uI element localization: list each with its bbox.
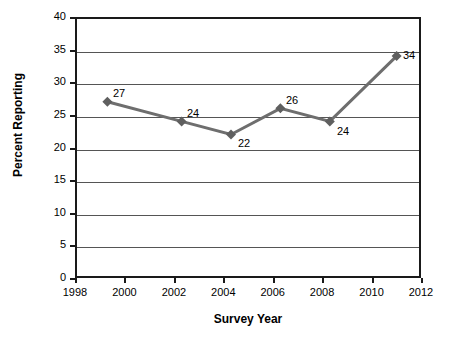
y-tick-mark bbox=[70, 213, 75, 215]
x-tick-label: 2000 bbox=[104, 287, 144, 298]
y-axis-title: Percent Reporting bbox=[11, 45, 25, 205]
y-tick-mark bbox=[70, 245, 75, 247]
x-tick-mark bbox=[372, 278, 374, 283]
data-point-label: 24 bbox=[337, 126, 349, 137]
x-tick-label: 2010 bbox=[352, 287, 392, 298]
x-tick-label: 1998 bbox=[55, 287, 95, 298]
y-tick-mark bbox=[70, 82, 75, 84]
y-tick-mark bbox=[70, 180, 75, 182]
y-tick-label: 10 bbox=[36, 207, 66, 218]
data-point-label: 22 bbox=[238, 138, 250, 149]
y-tick-mark bbox=[70, 17, 75, 19]
y-axis: 40 35 30 25 20 15 10 5 0 1998 2000 2002 … bbox=[0, 0, 450, 338]
x-tick-mark bbox=[75, 278, 77, 283]
x-tick-label: 2008 bbox=[302, 287, 342, 298]
y-tick-label: 20 bbox=[36, 142, 66, 153]
y-tick-label: 5 bbox=[36, 239, 66, 250]
y-tick-label: 25 bbox=[36, 109, 66, 120]
x-tick-label: 2004 bbox=[203, 287, 243, 298]
x-tick-mark bbox=[174, 278, 176, 283]
x-tick-mark bbox=[273, 278, 275, 283]
x-tick-mark bbox=[124, 278, 126, 283]
x-tick-mark bbox=[223, 278, 225, 283]
y-tick-label: 35 bbox=[36, 44, 66, 55]
y-tick-label: 30 bbox=[36, 76, 66, 87]
data-point-label: 27 bbox=[113, 88, 125, 99]
x-tick-label: 2006 bbox=[253, 287, 293, 298]
data-point-label: 26 bbox=[286, 95, 298, 106]
y-tick-label: 40 bbox=[36, 11, 66, 22]
data-point-label: 24 bbox=[187, 108, 199, 119]
x-tick-label: 2002 bbox=[154, 287, 194, 298]
line-chart: 40 35 30 25 20 15 10 5 0 1998 2000 2002 … bbox=[0, 0, 450, 338]
y-tick-label: 15 bbox=[36, 174, 66, 185]
data-point-label: 34 bbox=[403, 50, 415, 61]
x-tick-mark bbox=[322, 278, 324, 283]
x-tick-label: 2012 bbox=[401, 287, 441, 298]
y-tick-mark bbox=[70, 50, 75, 52]
y-tick-mark bbox=[70, 115, 75, 117]
x-axis-title: Survey Year bbox=[75, 312, 421, 326]
y-tick-label: 0 bbox=[36, 272, 66, 283]
x-tick-mark bbox=[421, 278, 423, 283]
y-tick-mark bbox=[70, 148, 75, 150]
